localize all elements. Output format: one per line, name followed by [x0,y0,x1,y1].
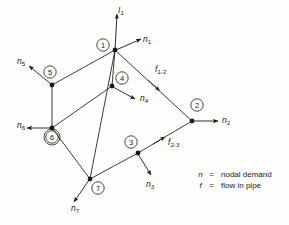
demand-label-n2-sub: 2 [227,119,230,126]
demand-label-n6: n6 [17,121,25,130]
demand-label-n7: n7 [71,204,79,213]
demand-arrow-n3 [138,154,151,175]
flow-label-f2-3: f2-3 [168,138,179,147]
inflow-label-sub: 1 [120,9,123,16]
legend-symbol-f: f [196,180,207,191]
flow-label-f2-3-sub: 2-3 [170,141,179,148]
legend-equals-n: = [207,169,218,180]
legend-text-n: nodal demand [218,169,274,180]
legend-table: n = nodal demand f = flow in pipe [196,169,274,191]
demand-arrows [27,39,218,202]
demand-arrow-n7 [74,180,89,202]
flow-label-f1-2-sub: 1-2 [157,68,166,75]
legend-symbol-n: n [196,169,207,180]
demand-label-n1-sub: 1 [148,38,151,45]
demand-arrow-n1 [116,39,141,50]
node-dot-3 [136,151,141,156]
demand-arrow-n4 [113,87,135,99]
pipe-7-3 [90,153,138,179]
node-label-5: 5 [44,66,57,79]
network-diagram-figure: I1 1 2 3 4 5 6 7 n1 n2 n3 n4 n5 n6 n7 f1… [0,0,289,225]
demand-label-n4: n4 [140,94,148,103]
node-dot-2 [190,119,195,124]
demand-label-n1: n1 [143,35,151,44]
node-dot-4 [110,84,115,89]
demand-label-n4-sub: 4 [145,97,148,104]
flow-arrow-2-3 [153,138,163,144]
node-dot-1 [113,48,118,53]
demand-label-n3: n3 [146,180,154,189]
flow-label-f1-2: f1-2 [155,65,166,74]
pipe-1-7 [90,50,115,179]
pipe-edges [52,50,138,179]
inflow-label: I1 [118,6,124,15]
demand-label-n2: n2 [222,116,230,125]
node-label-4: 4 [116,72,129,85]
node-dot-5 [50,83,55,88]
node-label-1: 1 [97,39,110,52]
node-label-7: 7 [92,182,105,195]
pipe-1-5 [52,50,115,85]
flow-arrow-1-2 [148,80,158,89]
legend: n = nodal demand f = flow in pipe [196,169,274,191]
flow-direction-arrowheads [148,80,163,144]
demand-label-n5: n5 [17,57,25,66]
legend-row-f: f = flow in pipe [196,180,274,191]
legend-row-n: n = nodal demand [196,169,274,180]
inflow-arrow [115,14,117,50]
legend-equals-f: = [207,180,218,191]
legend-text-f: flow in pipe [218,180,274,191]
demand-label-n7-sub: 7 [76,207,79,214]
demand-label-n5-sub: 5 [22,60,25,67]
demand-label-n3-sub: 3 [151,183,154,190]
node-label-6: 6 [46,131,59,144]
pipe-6-4 [52,86,112,128]
node-label-2: 2 [191,99,204,112]
demand-label-n6-sub: 6 [22,124,25,131]
node-label-3: 3 [125,136,138,149]
pipe-3-2 [138,121,192,153]
